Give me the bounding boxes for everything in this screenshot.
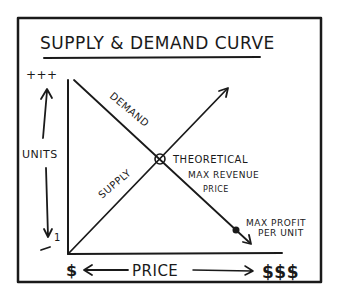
demand-label: DEMAND (108, 90, 152, 129)
endpoint-annotation-line-1: MAX PROFIT (246, 218, 306, 228)
y-axis-up-arrow (41, 89, 52, 138)
max-profit-dot (233, 227, 240, 234)
y-axis-bottom-label: 1 (54, 232, 61, 243)
intersection-annotation-line-3: PRICE (203, 185, 229, 194)
x-axis-right-label: $$$ (262, 262, 299, 282)
x-axis-title: PRICE (132, 262, 178, 280)
diagram-canvas: SUPPLY & DEMAND CURVE +++ UNITS 1 $ PRIC… (0, 0, 338, 294)
supply-label: SUPPLY (96, 167, 133, 201)
y-axis-top-label: +++ (26, 68, 58, 82)
title: SUPPLY & DEMAND CURVE (40, 33, 275, 53)
y-axis-title: UNITS (22, 148, 58, 161)
intersection-annotation-line-2: MAX REVENUE (188, 170, 259, 180)
y-axis-down-arrow (44, 168, 52, 237)
x-axis (68, 253, 282, 254)
x-axis-left-label: $ (66, 261, 78, 280)
intersection-annotation-line-1: THEORETICAL (172, 154, 248, 165)
endpoint-annotation-line-2: PER UNIT (258, 228, 304, 238)
y-axis-bottom-dash (41, 247, 50, 250)
x-axis-left-arrow (84, 265, 128, 275)
x-axis-right-arrow (193, 266, 253, 275)
title-underline (44, 57, 260, 58)
